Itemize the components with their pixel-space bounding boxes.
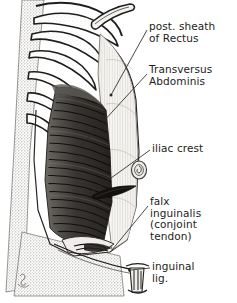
label-iliac-crest: iliac crest [152, 143, 203, 155]
label-post-sheath-of-rectus: post. sheath of Rectus [149, 21, 215, 44]
label-inguinal-ligament: inguinal lig. [152, 261, 195, 284]
label-transversus-abdominis: Transversus Abdominis [149, 64, 212, 87]
umbilicus-ring [132, 161, 147, 179]
label-falx-inguinalis: falx inguinalis (conjoint tendon) [150, 196, 201, 242]
